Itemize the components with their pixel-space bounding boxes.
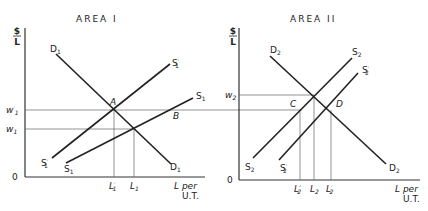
label-s1-prime-bottom: S′1 <box>41 158 49 169</box>
y-axis-label-dollar: $ <box>14 26 20 36</box>
point-d-label: D <box>336 99 343 109</box>
point-b-label: B <box>173 111 179 121</box>
panel-title: AREA II <box>290 14 336 24</box>
wage-label-w2: w2 <box>225 90 236 101</box>
label-d2-bottom: D2 <box>389 163 400 174</box>
label-s1-prime-top: S′1 <box>172 58 180 69</box>
y-axis-label-l: L <box>230 37 236 47</box>
label-s2-prime-top: S′2 <box>362 65 370 76</box>
label-d1-bottom: D1 <box>170 162 181 173</box>
label-d2-top: D2 <box>270 45 281 56</box>
point-c-label: C <box>290 99 297 109</box>
label-s2-top: S2 <box>352 47 362 58</box>
panel-area-2: AREA II $ L 0 w2 D2 D2 S2 S2 S′2 S′2 C D… <box>225 14 420 204</box>
wage-label-w1: w1 <box>6 124 17 135</box>
x-tick-l2-prime: L′2 <box>326 184 333 195</box>
y-axis-label-l: L <box>14 37 20 47</box>
panel-title: AREA I <box>76 14 118 24</box>
x-tick-l2-double-prime: L″2 <box>294 184 302 195</box>
supply-curve-s1 <box>66 98 193 163</box>
origin-label: 0 <box>227 175 233 185</box>
y-axis-label-dollar: $ <box>230 26 236 36</box>
supply-curve-s2-prime <box>279 73 358 160</box>
label-s1-top: S1 <box>196 91 206 102</box>
x-tick-l2: L2 <box>310 184 319 195</box>
x-axis-label-line2: U.T. <box>182 191 199 201</box>
label-s1-bottom: S1 <box>64 164 74 175</box>
labor-market-diagram: AREA I $ L 0 w′1 w1 D1 D1 S′1 S′1 S1 S1 … <box>0 0 428 211</box>
x-tick-l1: L1 <box>130 181 139 192</box>
wage-label-w1-prime: w′1 <box>6 105 19 116</box>
x-tick-l1-prime: L′1 <box>109 181 116 192</box>
panel-area-1: AREA I $ L 0 w′1 w1 D1 D1 S′1 S′1 S1 S1 … <box>6 14 302 201</box>
label-d1-top: D1 <box>50 44 61 55</box>
x-axis-label-line1: L per <box>174 181 198 191</box>
x-axis-label-line1: L per <box>395 184 419 194</box>
label-s2-bottom: S2 <box>245 162 255 173</box>
point-a-label: A <box>109 97 116 107</box>
supply-curve-s1-prime <box>52 64 170 158</box>
label-s2-prime-bottom: S′2 <box>280 163 288 174</box>
x-axis-label-line2: U.T. <box>403 194 420 204</box>
origin-label: 0 <box>12 172 18 182</box>
